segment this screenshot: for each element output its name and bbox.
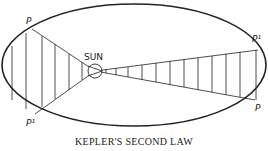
sun-label: SUN (84, 52, 103, 62)
sun-icon (88, 64, 102, 78)
left-bottom-label: P¹ (26, 118, 35, 128)
left-sector (12, 29, 95, 114)
right-top-label: P¹ (252, 34, 261, 44)
right-sector (95, 50, 258, 100)
left-top-label: P (26, 16, 32, 26)
diagram-title: KEPLER'S SECOND LAW (0, 136, 268, 147)
kepler-diagram: SUN P P¹ P¹ P (0, 0, 268, 151)
right-bottom-label: P (255, 103, 261, 113)
